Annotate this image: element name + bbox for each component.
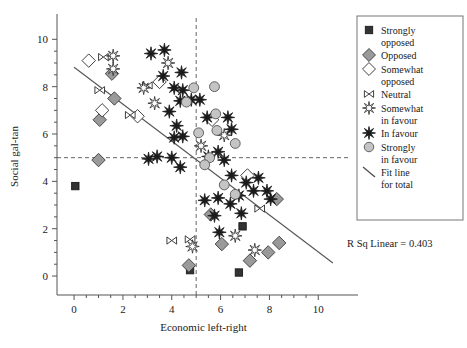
data-point — [215, 237, 228, 250]
legend-label: In favour — [381, 128, 419, 139]
data-point — [228, 229, 242, 243]
x-axis-title: Economic left-right — [160, 321, 246, 333]
legend-label: in favour — [381, 115, 418, 126]
data-point — [213, 226, 227, 240]
y-tick-label: 10 — [37, 33, 49, 45]
data-point — [103, 53, 108, 60]
x-tick-label: 6 — [218, 303, 224, 315]
legend-label: Opposed — [381, 50, 417, 61]
legend-label: Somewhat — [381, 64, 423, 75]
x-tick-label: 4 — [169, 303, 175, 315]
data-point — [264, 192, 278, 206]
data-point — [148, 96, 162, 110]
legend-label: Somewhat — [381, 103, 423, 114]
data-point — [144, 47, 158, 61]
data-point — [92, 153, 105, 166]
data-point — [193, 93, 207, 107]
y-axis-title: Social gal-tan — [8, 126, 20, 187]
series-somewhat-in-favour — [106, 49, 261, 257]
data-point — [210, 82, 220, 92]
data-point — [219, 180, 229, 190]
data-point — [161, 56, 175, 70]
legend-marker-circle-icon — [364, 142, 374, 152]
data-point — [221, 111, 235, 125]
data-point — [260, 205, 265, 212]
y-tick-label: 4 — [43, 175, 49, 187]
data-point — [198, 194, 212, 208]
data-point — [156, 69, 170, 83]
data-point — [230, 189, 240, 199]
data-point — [82, 54, 95, 67]
legend-label: opposed — [381, 37, 414, 48]
data-point — [230, 139, 240, 149]
data-point — [211, 191, 225, 205]
data-point — [225, 123, 239, 137]
data-point — [218, 153, 232, 167]
annotation-layer: R Sq Linear = 0.403 — [347, 238, 433, 249]
data-point — [176, 130, 190, 144]
data-point — [176, 83, 190, 97]
y-tick-label: 8 — [43, 81, 49, 93]
x-tick-label: 0 — [71, 303, 77, 315]
data-point — [248, 243, 261, 256]
legend-layer: StronglyopposedOpposedSomewhatopposedNeu… — [357, 16, 463, 220]
data-point — [106, 62, 120, 76]
data-point — [167, 81, 181, 95]
data-point — [106, 49, 120, 63]
data-point — [194, 128, 204, 138]
legend-label: Strongly — [381, 142, 415, 153]
y-tick-label: 6 — [43, 128, 49, 140]
data-point — [172, 237, 177, 244]
data-point — [211, 109, 221, 119]
y-tick-label: 0 — [43, 270, 49, 282]
legend-label: Fit line — [381, 167, 410, 178]
x-tick-label: 8 — [267, 303, 273, 315]
data-point — [189, 83, 199, 93]
data-point — [137, 81, 151, 95]
data-point — [225, 169, 239, 183]
data-point — [165, 151, 179, 165]
data-point — [170, 119, 184, 133]
legend-label: opposed — [381, 76, 414, 87]
r-squared-annotation: R Sq Linear = 0.403 — [347, 238, 433, 249]
legend-marker-square-icon — [365, 26, 372, 33]
data-point — [174, 160, 188, 174]
data-point — [175, 66, 189, 80]
data-point — [158, 43, 172, 57]
data-point — [72, 182, 79, 189]
legend-label: Neutral — [381, 89, 411, 100]
data-point — [261, 246, 274, 259]
chart-root: 02468100246810Economic left-rightSocial … — [0, 0, 467, 348]
data-points-layer — [72, 43, 286, 276]
data-point — [163, 105, 177, 119]
data-point — [272, 236, 285, 249]
legend-item-opposed[interactable]: Opposed — [363, 49, 417, 62]
scatter-plot: 02468100246810Economic left-rightSocial … — [0, 0, 467, 348]
data-point — [194, 139, 208, 153]
data-point — [235, 269, 242, 276]
legend-label: in favour — [381, 154, 418, 165]
data-point — [200, 160, 210, 170]
data-point — [235, 207, 249, 221]
data-point — [212, 126, 222, 136]
data-point — [208, 209, 222, 223]
data-point — [186, 240, 200, 254]
legend-label: for total — [381, 179, 413, 190]
legend-marker-star8-open-icon — [363, 102, 376, 115]
data-point — [181, 97, 191, 107]
data-point — [247, 184, 260, 198]
data-point — [252, 171, 266, 185]
legend-label: Strongly — [381, 25, 415, 36]
x-tick-label: 2 — [120, 303, 126, 315]
data-point — [142, 152, 156, 166]
legend-marker-star8-filled-icon — [363, 127, 376, 140]
x-tick-label: 10 — [313, 303, 325, 315]
data-point — [150, 150, 164, 164]
data-point — [239, 223, 246, 230]
y-tick-label: 2 — [43, 223, 49, 235]
